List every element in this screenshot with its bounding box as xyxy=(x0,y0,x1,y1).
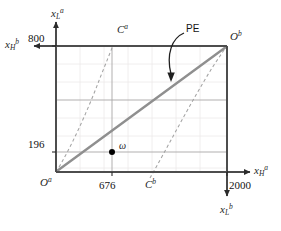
tick-label-800: 800 xyxy=(28,33,45,44)
axis-label-xla-sup: a xyxy=(60,6,64,15)
offer-curve-b-path xyxy=(150,47,226,178)
origin-a-label: Oa xyxy=(40,176,52,188)
endowment-point-label: ω xyxy=(119,141,126,151)
offer-curve-b-label: Cb xyxy=(145,178,156,190)
pe-annotation-label: PE xyxy=(186,24,200,34)
offer-curve-a-sup: a xyxy=(124,22,128,31)
axis-label-xha: xHa xyxy=(254,164,268,177)
origin-a-sup: a xyxy=(48,175,52,184)
edgeworth-box-figure: xLa xHb xHa xLb 800 196 676 2000 Oa Ob C… xyxy=(0,0,281,231)
origin-b-label: Ob xyxy=(230,30,242,42)
origin-b-base: O xyxy=(230,30,238,42)
tick-label-676: 676 xyxy=(99,180,116,191)
axis-label-xlb: xLb xyxy=(220,203,233,216)
origin-b-sup: b xyxy=(238,29,242,38)
axis-label-xha-sup: a xyxy=(264,163,268,172)
offer-curve-b-sup: b xyxy=(152,177,156,186)
origin-a-base: O xyxy=(40,176,48,188)
axis-label-xhb: xHb xyxy=(5,38,19,51)
axis-label-xla: xLa xyxy=(51,7,64,20)
tick-label-196: 196 xyxy=(28,139,45,150)
offer-curve-a-label: Ca xyxy=(117,23,128,35)
axis-label-xhb-sup: b xyxy=(15,37,19,46)
axis-label-xlb-sup: b xyxy=(229,202,233,211)
endowment-point-dot xyxy=(109,149,115,155)
tick-label-2000: 2000 xyxy=(229,180,251,191)
